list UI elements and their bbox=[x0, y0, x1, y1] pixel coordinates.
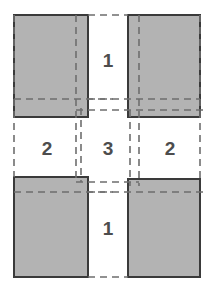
gap-label-top: 1 bbox=[103, 50, 114, 71]
gap-label-left: 2 bbox=[42, 138, 53, 159]
rect-bottom-right bbox=[128, 179, 200, 277]
gap-label-bottom: 1 bbox=[103, 218, 114, 239]
gap-label-center: 3 bbox=[103, 138, 114, 159]
gap-label-right: 2 bbox=[165, 138, 176, 159]
geometry-diagram: 1 2 3 2 1 bbox=[0, 0, 212, 292]
rect-top-left bbox=[14, 15, 88, 117]
diagram-canvas: 1 2 3 2 1 bbox=[0, 0, 212, 292]
